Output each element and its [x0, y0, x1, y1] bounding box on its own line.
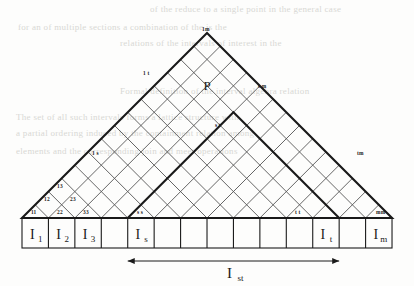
- diamond-grid-layer: [35, 46, 379, 218]
- svg-text:3: 3: [91, 234, 96, 244]
- interval-box-label: I3: [83, 227, 96, 244]
- interval-box-label: Is: [136, 227, 149, 244]
- lattice-node-label: 1 s: [92, 150, 99, 156]
- svg-text:I: I: [83, 227, 88, 242]
- svg-text:I: I: [30, 227, 35, 242]
- lattice-node-label: 12: [44, 196, 50, 202]
- lattice-node-label: 11: [31, 209, 37, 215]
- lattice-node-label: 33: [83, 209, 89, 215]
- svg-text:1: 1: [38, 234, 43, 244]
- svg-text:I: I: [136, 227, 141, 242]
- svg-text:s: s: [144, 234, 148, 244]
- lattice-node-label: tm: [357, 150, 364, 156]
- lattice-node-label: 13: [57, 183, 63, 189]
- svg-text:I: I: [56, 227, 61, 242]
- interval-boxes-layer: I1I2I3IsItIm: [22, 218, 392, 248]
- triangle-outline-layer: [22, 33, 392, 218]
- lattice-node-label: s m: [258, 83, 267, 89]
- svg-text:2: 2: [64, 234, 69, 244]
- ist-sublabel: st: [237, 273, 244, 283]
- lattice-labels-layer: 1112132223331 ss s1 ts tt t1ms mtmmm: [31, 26, 386, 215]
- ist-label: I: [227, 265, 232, 281]
- lattice-node-label: t t: [295, 209, 301, 215]
- lattice-node-label: 1 t: [143, 70, 149, 76]
- interval-box-label: I2: [56, 227, 69, 244]
- ist-measure-arrow: Ist: [128, 258, 339, 283]
- lattice-node-label: s t: [215, 122, 221, 128]
- interval-box-label: Im: [373, 227, 387, 244]
- lattice-node-label: 22: [57, 209, 63, 215]
- svg-text:I: I: [373, 227, 378, 242]
- lattice-node-label: 23: [70, 196, 76, 202]
- svg-text:t: t: [330, 234, 333, 244]
- svg-text:m: m: [380, 234, 387, 244]
- lattice-node-label: s s: [137, 209, 143, 215]
- interval-lattice-diagram: I1I2I3IsItIm 1112132223331 ss s1 ts tt t…: [0, 0, 414, 286]
- lattice-p-label: P: [203, 78, 210, 93]
- interval-box-label: I1: [30, 227, 43, 244]
- interval-box-label: It: [321, 227, 333, 244]
- lattice-node-label: 1m: [202, 26, 210, 32]
- svg-text:I: I: [321, 227, 326, 242]
- lattice-node-label: mm: [376, 209, 386, 215]
